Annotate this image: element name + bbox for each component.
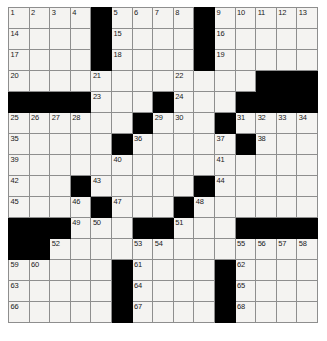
crossword-cell[interactable] [50,260,71,281]
crossword-cell[interactable]: 41 [214,155,235,176]
crossword-cell[interactable] [276,50,297,71]
crossword-cell[interactable] [276,134,297,155]
crossword-cell[interactable] [132,176,153,197]
crossword-cell[interactable] [173,239,194,260]
crossword-cell[interactable]: 10 [235,8,256,29]
crossword-cell[interactable] [297,302,318,323]
crossword-cell[interactable]: 3 [50,8,71,29]
crossword-cell[interactable]: 36 [132,134,153,155]
crossword-cell[interactable] [235,155,256,176]
crossword-cell[interactable] [214,71,235,92]
crossword-cell[interactable]: 34 [297,113,318,134]
crossword-cell[interactable]: 54 [153,239,174,260]
crossword-cell[interactable] [91,302,112,323]
crossword-cell[interactable]: 52 [50,239,71,260]
crossword-cell[interactable] [132,155,153,176]
crossword-cell[interactable] [235,50,256,71]
crossword-cell[interactable] [256,155,277,176]
crossword-cell[interactable]: 15 [111,29,132,50]
crossword-cell[interactable] [153,29,174,50]
crossword-cell[interactable] [214,239,235,260]
crossword-cell[interactable] [70,302,91,323]
crossword-cell[interactable]: 45 [9,197,30,218]
crossword-cell[interactable] [214,92,235,113]
crossword-cell[interactable]: 2 [29,8,50,29]
crossword-cell[interactable] [194,260,215,281]
crossword-cell[interactable] [91,239,112,260]
crossword-cell[interactable] [153,260,174,281]
crossword-cell[interactable]: 32 [256,113,277,134]
crossword-cell[interactable] [173,134,194,155]
crossword-cell[interactable] [91,155,112,176]
crossword-cell[interactable] [50,281,71,302]
crossword-cell[interactable] [111,218,132,239]
crossword-cell[interactable]: 65 [235,281,256,302]
crossword-cell[interactable] [91,113,112,134]
crossword-cell[interactable] [132,50,153,71]
crossword-cell[interactable] [153,155,174,176]
crossword-cell[interactable] [256,281,277,302]
crossword-cell[interactable]: 47 [111,197,132,218]
crossword-cell[interactable]: 64 [132,281,153,302]
crossword-cell[interactable]: 1 [9,8,30,29]
crossword-cell[interactable] [235,197,256,218]
crossword-cell[interactable]: 59 [9,260,30,281]
crossword-cell[interactable]: 22 [173,71,194,92]
crossword-cell[interactable]: 21 [91,71,112,92]
crossword-cell[interactable]: 4 [70,8,91,29]
crossword-cell[interactable] [256,176,277,197]
crossword-cell[interactable] [70,155,91,176]
crossword-cell[interactable]: 12 [276,8,297,29]
crossword-cell[interactable] [173,50,194,71]
crossword-cell[interactable] [297,29,318,50]
crossword-cell[interactable]: 16 [214,29,235,50]
crossword-cell[interactable] [297,197,318,218]
crossword-cell[interactable] [297,281,318,302]
crossword-cell[interactable] [297,155,318,176]
crossword-cell[interactable] [173,155,194,176]
crossword-cell[interactable] [153,50,174,71]
crossword-cell[interactable]: 7 [153,8,174,29]
crossword-cell[interactable] [29,155,50,176]
crossword-cell[interactable]: 66 [9,302,30,323]
crossword-cell[interactable]: 61 [132,260,153,281]
crossword-cell[interactable] [153,71,174,92]
crossword-cell[interactable]: 6 [132,8,153,29]
crossword-cell[interactable] [91,281,112,302]
crossword-cell[interactable] [256,197,277,218]
crossword-cell[interactable] [111,71,132,92]
crossword-cell[interactable] [235,71,256,92]
crossword-cell[interactable] [50,134,71,155]
crossword-cell[interactable] [70,71,91,92]
crossword-cell[interactable]: 5 [111,8,132,29]
crossword-cell[interactable] [29,197,50,218]
crossword-cell[interactable]: 43 [91,176,112,197]
crossword-cell[interactable] [276,260,297,281]
crossword-cell[interactable]: 31 [235,113,256,134]
crossword-cell[interactable] [153,134,174,155]
crossword-cell[interactable] [70,239,91,260]
crossword-cell[interactable] [276,281,297,302]
crossword-cell[interactable] [194,281,215,302]
crossword-cell[interactable] [91,134,112,155]
crossword-cell[interactable]: 26 [29,113,50,134]
crossword-cell[interactable]: 24 [173,92,194,113]
crossword-cell[interactable] [132,92,153,113]
crossword-cell[interactable] [50,29,71,50]
crossword-cell[interactable]: 60 [29,260,50,281]
crossword-cell[interactable] [276,302,297,323]
crossword-cell[interactable] [214,218,235,239]
crossword-cell[interactable] [111,92,132,113]
crossword-cell[interactable] [173,260,194,281]
crossword-cell[interactable] [276,29,297,50]
crossword-cell[interactable]: 30 [173,113,194,134]
crossword-cell[interactable]: 8 [173,8,194,29]
crossword-grid[interactable]: 1234567891011121314151617181920212223242… [8,7,318,323]
crossword-cell[interactable]: 44 [214,176,235,197]
crossword-cell[interactable] [256,50,277,71]
crossword-cell[interactable]: 29 [153,113,174,134]
crossword-cell[interactable] [50,176,71,197]
crossword-cell[interactable] [50,71,71,92]
crossword-cell[interactable] [70,281,91,302]
crossword-cell[interactable] [29,281,50,302]
